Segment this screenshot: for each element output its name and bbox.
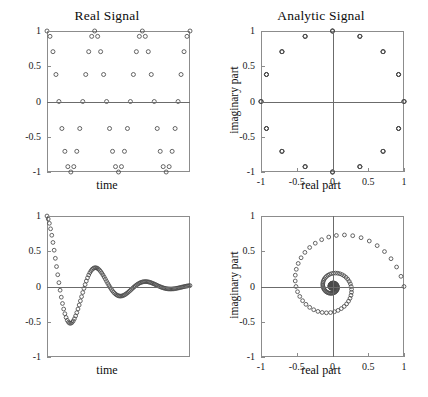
panel-real-signal-cosine: Real Signal time 10.50-0.5-1 [0, 0, 214, 199]
y-axis-tick-label: 0.5 [7, 246, 41, 256]
y-axis-tick-label: -0.5 [7, 132, 41, 142]
y-axis-tick [47, 137, 51, 138]
y-axis-tick-label: 0.5 [221, 246, 255, 256]
x-axis-tick-label: -0.5 [289, 177, 305, 187]
y-axis-tick-label: -1 [221, 167, 255, 177]
x-axis-tick-label: 0 [330, 362, 335, 372]
x-axis-label: time [0, 178, 214, 192]
y-axis-tick [261, 172, 265, 173]
panel-real-signal-damped: time 10.50-0.5-1 [0, 199, 214, 397]
zero-horizontal-axis [47, 287, 190, 288]
x-axis-tick-label: 0.5 [362, 177, 375, 187]
y-axis-tick-label: 0 [7, 282, 41, 292]
y-axis-tick-label: -0.5 [221, 132, 255, 142]
zero-vertical-axis [333, 31, 334, 172]
x-axis-tick-label: -0.5 [289, 362, 305, 372]
x-axis-tick [404, 168, 405, 172]
y-axis-tick [261, 137, 265, 138]
x-axis-tick [368, 353, 369, 357]
y-axis-tick [261, 357, 265, 358]
x-axis-tick-label: -1 [257, 177, 265, 187]
x-axis-tick-label: 1 [402, 362, 407, 372]
y-axis-tick [261, 31, 265, 32]
y-axis-tick [47, 172, 51, 173]
y-axis-tick-label: 1 [221, 26, 255, 36]
x-axis-tick-label: 1 [402, 177, 407, 187]
x-axis-tick [261, 168, 262, 172]
y-axis-tick-label: -0.5 [7, 317, 41, 327]
y-axis-tick [261, 251, 265, 252]
x-axis-tick [297, 168, 298, 172]
y-axis-tick-label: 0 [221, 97, 255, 107]
x-axis-tick-label: 0 [330, 177, 335, 187]
x-axis-tick [297, 353, 298, 357]
y-axis-tick [47, 31, 51, 32]
x-axis-label: real part [214, 363, 428, 377]
y-axis-tick [261, 322, 265, 323]
y-axis-tick [47, 66, 51, 67]
y-axis-tick [47, 216, 51, 217]
panel-analytic-signal-circle: Analytic Signal real part imaginary part… [214, 0, 428, 199]
y-axis-tick-label: 1 [7, 211, 41, 221]
x-axis-tick-label: -1 [257, 362, 265, 372]
y-axis-tick-label: 0.5 [221, 61, 255, 71]
y-axis-tick-label: -1 [7, 352, 41, 362]
y-axis-tick-label: 1 [7, 26, 41, 36]
y-axis-tick-label: 0.5 [7, 61, 41, 71]
x-axis-tick [404, 353, 405, 357]
y-axis-tick [261, 216, 265, 217]
y-axis-tick [47, 357, 51, 358]
y-axis-tick [261, 66, 265, 67]
y-axis-tick-label: -0.5 [221, 317, 255, 327]
zero-horizontal-axis [47, 102, 190, 103]
y-axis-tick-label: 0 [221, 282, 255, 292]
y-axis-tick-label: -1 [221, 352, 255, 362]
y-axis-tick [47, 251, 51, 252]
y-axis-tick-label: 0 [7, 97, 41, 107]
panel-analytic-signal-spiral: real part imaginary part 10.50-0.5-1-1-0… [214, 199, 428, 397]
y-axis-tick-label: -1 [7, 167, 41, 177]
x-axis-tick [261, 353, 262, 357]
zero-vertical-axis [333, 216, 334, 357]
y-axis-tick [47, 322, 51, 323]
figure-canvas: Real Signal time 10.50-0.5-1 Analytic Si… [0, 0, 428, 397]
x-axis-tick-label: 0.5 [362, 362, 375, 372]
y-axis-tick-label: 1 [221, 211, 255, 221]
x-axis-label: real part [214, 178, 428, 192]
x-axis-tick [368, 168, 369, 172]
x-axis-label: time [0, 363, 214, 377]
